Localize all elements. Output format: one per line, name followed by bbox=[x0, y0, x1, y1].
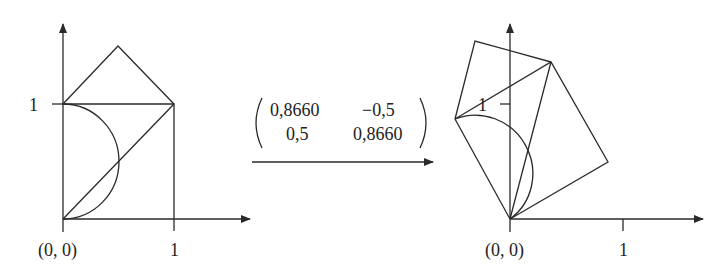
right-paren bbox=[420, 98, 426, 148]
right-semicircle bbox=[455, 115, 533, 219]
left-roof bbox=[63, 46, 174, 104]
left-semicircle bbox=[63, 104, 119, 219]
transformation-matrix: 0,8660 −0,5 0,5 0,8660 bbox=[256, 98, 426, 148]
matrix-a21: 0,5 bbox=[286, 124, 309, 144]
linear-transformation-diagram: 1 (0, 0) 1 0,8660 −0,5 0,5 0,8660 1 (0, … bbox=[0, 0, 722, 278]
matrix-a12: −0,5 bbox=[362, 100, 395, 120]
matrix-a22: 0,8660 bbox=[353, 124, 403, 144]
matrix-a11: 0,8660 bbox=[270, 100, 320, 120]
right-square-left-edge bbox=[455, 119, 510, 219]
left-origin-label: (0, 0) bbox=[38, 240, 77, 261]
left-y-tick-label: 1 bbox=[29, 95, 38, 115]
left-x-tick-label: 1 bbox=[170, 240, 179, 260]
right-x-tick-label: 1 bbox=[619, 240, 628, 260]
left-paren bbox=[256, 98, 262, 148]
right-square bbox=[455, 62, 608, 219]
right-figure bbox=[455, 24, 703, 232]
right-roof bbox=[455, 41, 551, 119]
right-diagonal bbox=[510, 62, 551, 219]
right-origin-label: (0, 0) bbox=[485, 240, 524, 261]
left-figure bbox=[52, 24, 250, 232]
right-y-tick-label: 1 bbox=[478, 95, 487, 115]
